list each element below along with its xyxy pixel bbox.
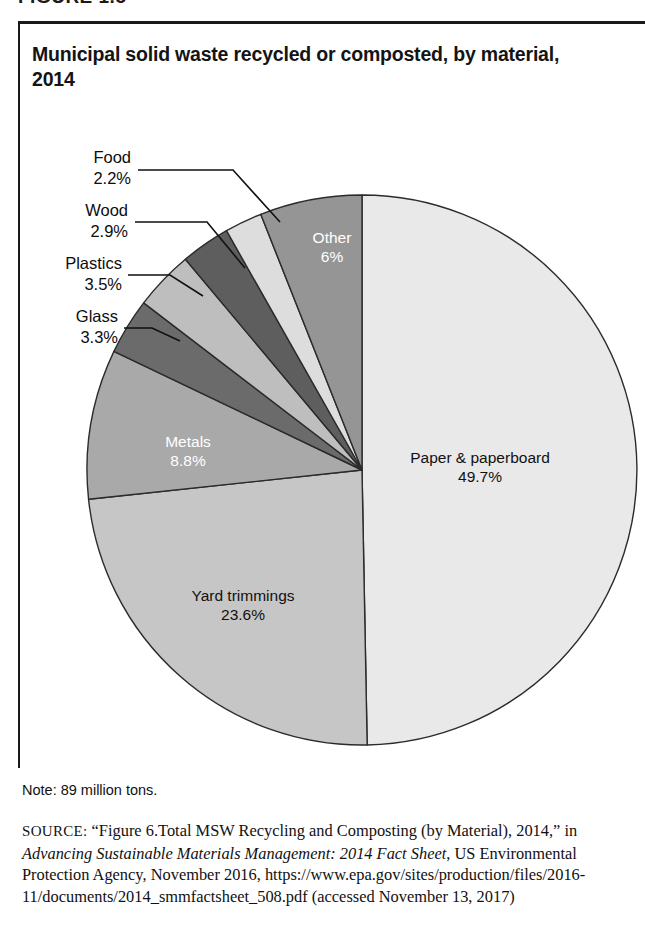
- chart-source: SOURCE: “Figure 6.Total MSW Recycling an…: [22, 820, 622, 907]
- figure-border-box: [18, 21, 645, 768]
- source-publication-title: Advancing Sustainable Materials Manageme…: [22, 844, 446, 863]
- source-label: SOURCE:: [22, 823, 87, 839]
- source-text-part1: “Figure 6.Total MSW Recycling and Compos…: [87, 821, 577, 840]
- page-title: Municipal solid waste recycled or compos…: [32, 42, 592, 92]
- chart-note: Note: 89 million tons.: [22, 782, 157, 798]
- figure-number-label: FIGURE 1.5: [18, 0, 126, 8]
